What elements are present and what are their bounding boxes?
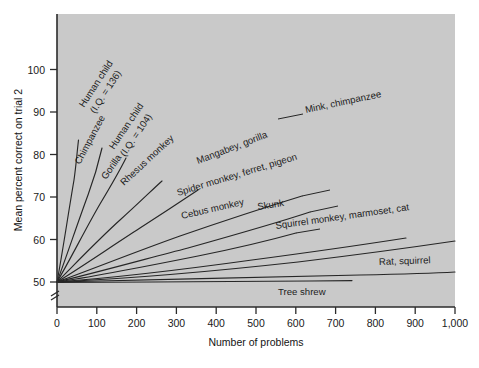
x-tick-label: 500 <box>247 317 265 329</box>
x-tick-label: 600 <box>287 317 305 329</box>
x-tick-label: 800 <box>367 317 385 329</box>
learning-set-chart-figure: 50 60 70 80 90 100 0 100 200 300 400 500… <box>0 0 479 368</box>
y-tick-label: 80 <box>33 149 45 161</box>
series-label-rat-squirrel: Rat, squirrel <box>379 254 431 267</box>
x-tick-label: 1,000 <box>442 317 468 329</box>
x-tick-group <box>57 307 455 314</box>
y-tick-label: 60 <box>33 234 45 246</box>
y-tick-group <box>50 70 57 283</box>
y-tick-label: 90 <box>33 106 45 118</box>
chart-svg: 50 60 70 80 90 100 0 100 200 300 400 500… <box>0 0 479 368</box>
y-tick-labels: 50 60 70 80 90 100 <box>27 64 45 289</box>
x-tick-labels: 0 100 200 300 400 500 600 700 800 900 1,… <box>54 317 468 329</box>
series-label-tree-shrew: Tree shrew <box>278 286 326 297</box>
y-tick-label: 70 <box>33 191 45 203</box>
x-tick-label: 400 <box>207 317 225 329</box>
x-tick-label: 700 <box>327 317 345 329</box>
x-tick-label: 300 <box>168 317 186 329</box>
x-tick-label: 100 <box>88 317 106 329</box>
x-tick-label: 200 <box>128 317 146 329</box>
x-axis-title: Number of problems <box>208 336 303 348</box>
x-tick-label: 900 <box>406 317 424 329</box>
y-tick-label: 100 <box>27 64 45 76</box>
x-tick-label: 0 <box>54 317 60 329</box>
y-tick-label: 50 <box>33 276 45 288</box>
y-axis-title: Mean percent correct on trial 2 <box>12 89 24 232</box>
